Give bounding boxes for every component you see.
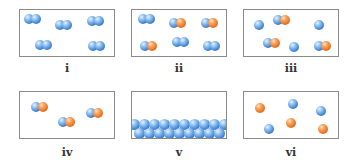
atom-blue	[254, 20, 264, 30]
atom-blue	[214, 128, 225, 139]
atom-blue	[62, 20, 72, 30]
atom-blue	[95, 41, 105, 51]
atom-orange	[65, 117, 75, 127]
atom-orange	[147, 41, 157, 51]
panel-iv	[19, 91, 115, 139]
atom-blue	[179, 37, 189, 47]
panel-vi	[243, 91, 339, 139]
panel-label-v: v	[131, 146, 227, 159]
atom-blue	[288, 99, 298, 109]
panel-i	[19, 9, 115, 57]
atom-orange	[38, 102, 48, 112]
atom-blue	[264, 124, 274, 134]
atom-orange	[286, 118, 296, 128]
panel-label-iii: iii	[243, 62, 339, 75]
atom-orange	[93, 108, 103, 118]
panel-label-iv: iv	[19, 146, 115, 159]
panel-ii	[131, 9, 227, 57]
atom-blue	[314, 20, 324, 30]
atom-orange	[208, 18, 218, 28]
atom-blue	[31, 14, 41, 24]
atom-blue	[316, 106, 326, 116]
panel-v	[131, 91, 227, 139]
panel-iii	[243, 9, 339, 57]
atom-orange	[318, 124, 328, 134]
atom-blue	[94, 16, 104, 26]
atom-orange	[321, 41, 331, 51]
atom-orange	[280, 15, 290, 25]
atom-blue	[145, 14, 155, 24]
panel-label-vi: vi	[243, 146, 339, 159]
atom-orange	[176, 18, 186, 28]
atom-blue	[289, 42, 299, 52]
atom-orange	[270, 38, 280, 48]
atom-blue	[42, 40, 52, 50]
panel-label-ii: ii	[131, 62, 227, 75]
atom-orange	[255, 103, 265, 113]
panel-label-i: i	[19, 62, 115, 75]
atom-blue	[210, 41, 220, 51]
